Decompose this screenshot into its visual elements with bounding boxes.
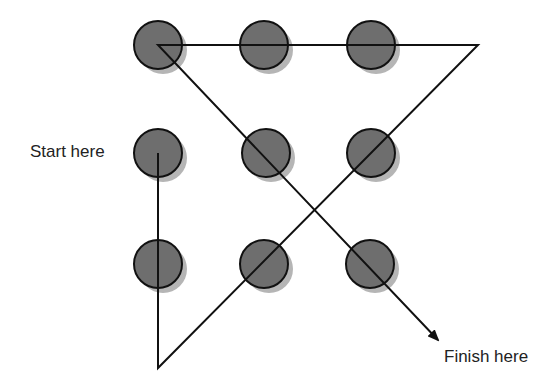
dot — [240, 240, 293, 293]
dot — [347, 129, 400, 182]
dot — [346, 240, 399, 293]
dot — [242, 129, 295, 182]
puzzle-diagram — [0, 0, 559, 384]
dot — [134, 129, 187, 182]
start-label: Start here — [30, 142, 105, 162]
dot — [347, 21, 400, 74]
dot — [134, 240, 187, 293]
dot — [240, 21, 293, 74]
finish-label: Finish here — [444, 347, 528, 367]
solution-path — [158, 45, 478, 368]
